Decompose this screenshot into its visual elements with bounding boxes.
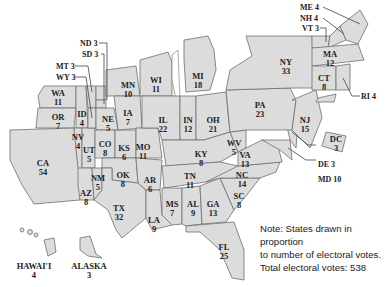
state-sd bbox=[96, 100, 106, 108]
state-ri bbox=[336, 64, 350, 90]
note-line-3: Total electoral votes: 538 bbox=[260, 261, 388, 274]
callout-ri: RI 4 bbox=[361, 92, 376, 101]
label-wi: WI11 bbox=[150, 76, 162, 94]
label-or: OR7 bbox=[52, 113, 65, 131]
state-ma bbox=[312, 44, 364, 66]
callout-nd: ND 3 bbox=[80, 39, 98, 48]
label-ne: NE5 bbox=[102, 115, 114, 133]
label-ct: CT8 bbox=[318, 74, 330, 92]
label-al: AL9 bbox=[187, 200, 199, 218]
state-vt bbox=[312, 36, 330, 48]
label-ny: NY33 bbox=[280, 58, 292, 76]
label-wa: WA11 bbox=[51, 89, 65, 107]
label-pa: PA23 bbox=[255, 101, 266, 119]
callout-mt: MT 3 bbox=[56, 62, 75, 71]
label-nj: NJ15 bbox=[300, 116, 310, 134]
callout-vt: VT 3 bbox=[302, 24, 319, 33]
label-in: IN12 bbox=[183, 116, 192, 134]
label-fl: FL25 bbox=[219, 243, 230, 261]
label-ga: GA13 bbox=[207, 200, 220, 218]
callout-wy: WY 3 bbox=[56, 73, 75, 82]
label-oh: OH21 bbox=[206, 116, 219, 134]
state-ny bbox=[226, 36, 314, 90]
map-note: Note: States drawn in proportion to numb… bbox=[260, 222, 388, 274]
label-ma: MA12 bbox=[323, 50, 337, 68]
label-ar: AR6 bbox=[144, 176, 156, 194]
label-tx: TX32 bbox=[113, 204, 125, 222]
label-ky: KY8 bbox=[195, 150, 208, 168]
hi-island bbox=[20, 228, 24, 232]
label-ms: MS7 bbox=[166, 200, 179, 218]
label-nc: NC14 bbox=[236, 171, 248, 189]
callout-sd: SD 3 bbox=[82, 50, 98, 59]
label-tn: TN11 bbox=[184, 172, 196, 190]
label-dc: DC3 bbox=[330, 135, 342, 153]
label-sc: SC8 bbox=[234, 192, 245, 210]
lake-michigan bbox=[172, 50, 180, 100]
state-li bbox=[316, 94, 336, 102]
state-ak bbox=[80, 236, 102, 258]
label-ia: IA7 bbox=[123, 109, 132, 127]
label-mo: MO11 bbox=[136, 143, 151, 161]
label-mi: MI18 bbox=[192, 72, 203, 90]
hi-island bbox=[28, 230, 33, 235]
state-fl bbox=[186, 222, 244, 280]
label-ok: OK8 bbox=[116, 171, 129, 189]
label-mn: MN10 bbox=[121, 81, 135, 99]
label-wv: WV5 bbox=[227, 139, 242, 157]
label-il: IL22 bbox=[159, 116, 168, 134]
label-ak: ALASKA3 bbox=[71, 262, 106, 280]
label-la: LA9 bbox=[148, 216, 160, 234]
callout-de: DE 3 bbox=[318, 160, 335, 169]
label-ks: KS6 bbox=[118, 144, 129, 162]
note-line-2: to number of electoral votes. bbox=[260, 248, 388, 261]
label-ca: CA54 bbox=[37, 159, 49, 177]
note-line-1: Note: States drawn in proportion bbox=[260, 222, 388, 248]
label-id: ID4 bbox=[77, 110, 86, 128]
label-nm: NM5 bbox=[91, 174, 105, 192]
label-hi: HAWAI'I4 bbox=[17, 262, 51, 280]
callout-md: MD 10 bbox=[318, 175, 341, 184]
label-ut: UT5 bbox=[83, 146, 95, 164]
state-nd bbox=[96, 86, 106, 100]
callout-me: ME 4 bbox=[300, 3, 319, 12]
state-hi bbox=[44, 238, 56, 256]
electoral-map: WA11 OR7 CA54 ID4 NV4 UT5 AZ8 NM5 CO8 NE… bbox=[0, 0, 388, 287]
label-co: CO8 bbox=[99, 140, 112, 158]
hi-island bbox=[34, 233, 38, 237]
callout-nh: NH 4 bbox=[300, 14, 318, 23]
